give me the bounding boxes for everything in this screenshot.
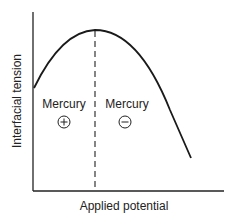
y-axis-label: Interfacial tension [10,54,24,148]
electrocapillary-diagram: Mercury Mercury Applied potential Interf… [0,0,234,222]
positive-charge-icon [58,116,70,128]
left-region-label: Mercury [42,97,85,111]
negative-charge-icon [119,116,131,128]
right-region-label: Mercury [105,97,148,111]
tension-curve [34,30,191,158]
x-axis-label: Applied potential [80,199,169,213]
